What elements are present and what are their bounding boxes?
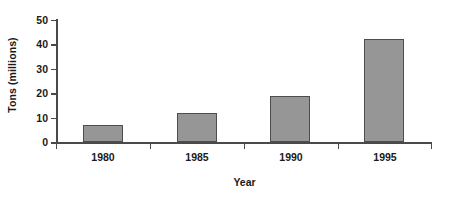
x-tick-mark — [150, 144, 151, 149]
x-tick-mark — [338, 144, 339, 149]
bar-1995 — [364, 39, 404, 142]
bar-1990 — [270, 96, 310, 143]
y-tick-mark — [51, 44, 56, 45]
x-tick-mark — [56, 144, 57, 149]
x-tick-label-1985: 1985 — [150, 151, 244, 163]
y-tick-mark — [51, 93, 56, 94]
y-axis-line — [56, 19, 58, 144]
y-tick-label: 30 — [20, 64, 48, 75]
x-tick-label-1990: 1990 — [244, 151, 338, 163]
x-tick-label-1995: 1995 — [338, 151, 432, 163]
y-axis-title-label: Tons (millions) — [6, 37, 18, 112]
y-tick-mark — [51, 20, 56, 21]
x-tick-mark — [244, 144, 245, 149]
bar-1985 — [177, 113, 217, 142]
y-tick-mark — [51, 69, 56, 70]
x-tick-label-1980: 1980 — [56, 151, 150, 163]
y-tick-label: 0 — [20, 137, 48, 148]
bar-chart: Tons (millions) 50 40 30 20 10 0 1980 19… — [0, 0, 452, 201]
y-tick-label: 40 — [20, 39, 48, 50]
y-tick-label: 20 — [20, 88, 48, 99]
bar-1980 — [83, 125, 123, 142]
y-tick-label: 10 — [20, 113, 48, 124]
x-axis-title: Year — [57, 176, 432, 188]
x-tick-mark — [431, 144, 432, 149]
y-tick-label: 50 — [20, 15, 48, 26]
y-tick-mark — [51, 118, 56, 119]
